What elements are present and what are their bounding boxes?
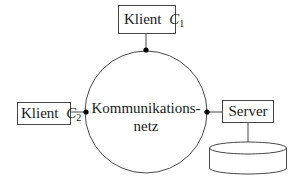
client1-node: Klient C1 — [119, 6, 185, 53]
client2-subscript: 2 — [76, 112, 81, 123]
network-label-line2: netz — [134, 118, 159, 134]
client1-port-dot — [143, 47, 148, 52]
network-label-line1: Kommunikations- — [91, 100, 200, 116]
client1-subscript: 1 — [179, 18, 184, 29]
svg-text:Klient C1: Klient C1 — [124, 11, 184, 29]
client2-port-dot — [83, 109, 88, 114]
database-cylinder-icon — [210, 142, 287, 174]
svg-text:Klient C2: Klient C2 — [21, 105, 81, 123]
client2-node: Klient C2 — [18, 103, 89, 125]
client1-label: Klient — [124, 11, 162, 27]
client2-label: Klient — [21, 105, 59, 121]
server-node: Server — [204, 101, 273, 147]
server-port-dot — [204, 109, 209, 114]
network-diagram: Kommunikations- netz Klient C1 Klient C2… — [0, 0, 305, 187]
server-label: Server — [228, 103, 267, 119]
